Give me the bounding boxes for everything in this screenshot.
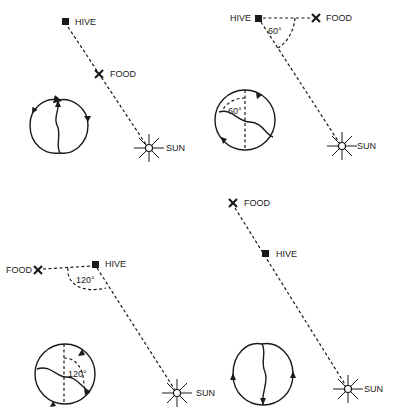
- hive-sun-line: [68, 27, 147, 146]
- waggle-dance-circle: 60°: [215, 90, 275, 150]
- bee-waggle-dance-diagram: HIVE FOOD SUN HIVE 60°: [0, 0, 396, 420]
- hive-label: HIVE: [105, 259, 126, 269]
- panel-food-60-degrees: HIVE 60° FOOD SUN 60°: [215, 13, 376, 160]
- hive-label: HIVE: [276, 249, 297, 259]
- angle-label: 120°: [76, 275, 95, 285]
- sun-label: SUN: [196, 388, 215, 398]
- angle-label: 60°: [268, 26, 282, 36]
- food-label: FOOD: [326, 13, 352, 23]
- hive-icon: [255, 15, 262, 22]
- panel-food-toward-sun: HIVE FOOD SUN: [29, 17, 185, 162]
- hive-label: HIVE: [75, 17, 96, 27]
- food-label: FOOD: [110, 69, 136, 79]
- food-x-icon: [229, 199, 237, 207]
- food-x-icon: [312, 14, 320, 22]
- panel-food-away-from-sun: FOOD HIVE SUN: [229, 198, 383, 405]
- waggle-dance-circle: [29, 100, 91, 154]
- hive-icon: [62, 18, 69, 25]
- hive-icon: [92, 261, 99, 268]
- waggle-dance-circle: [230, 344, 296, 405]
- sun-icon: [134, 134, 164, 162]
- food-label: FOOD: [6, 265, 32, 275]
- panel-food-120-degrees: FOOD HIVE 120° SUN 120°: [6, 259, 215, 407]
- sun-icon: [327, 132, 357, 160]
- sun-icon: [162, 379, 192, 407]
- waggle-dance-circle: 120°: [35, 344, 95, 407]
- sun-label: SUN: [166, 143, 185, 153]
- sun-icon: [333, 375, 363, 403]
- food-x-icon: [95, 70, 103, 78]
- dance-angle-label: 60°: [228, 106, 242, 116]
- food-label: FOOD: [244, 198, 270, 208]
- hive-label: HIVE: [230, 13, 251, 23]
- dance-angle-label: 120°: [68, 369, 87, 379]
- hive-sun-line: [261, 22, 340, 144]
- food-x-icon: [34, 266, 42, 274]
- sun-label: SUN: [364, 384, 383, 394]
- hive-icon: [262, 250, 269, 257]
- sun-label: SUN: [357, 141, 376, 151]
- hive-sun-line: [97, 268, 175, 390]
